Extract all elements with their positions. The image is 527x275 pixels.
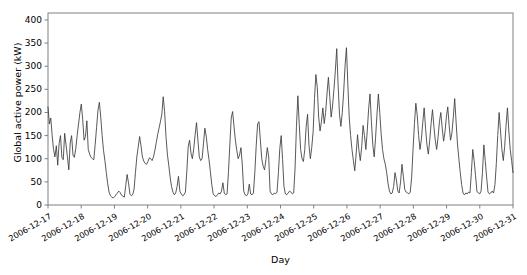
chart-figure: Global active power (kW) 050100150200250… xyxy=(0,0,527,275)
x-axis-title: Day xyxy=(48,254,513,265)
plot-frame xyxy=(48,13,513,205)
